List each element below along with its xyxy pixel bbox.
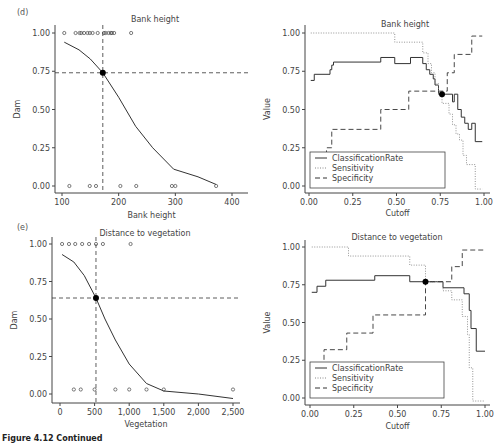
series-classificationrate xyxy=(312,276,485,352)
data-point xyxy=(68,184,71,187)
x-tick-label: 0.25 xyxy=(344,198,362,207)
data-point xyxy=(231,388,234,391)
fitted-curve xyxy=(64,42,216,184)
chart-title: Distance to vegetation xyxy=(351,233,442,242)
x-tick-label: 0.75 xyxy=(431,198,449,207)
y-tick-label: 0.00 xyxy=(282,182,300,191)
x-tick-label: 100 xyxy=(54,198,69,207)
chart-title: Bank height xyxy=(131,15,179,24)
data-point xyxy=(72,388,75,391)
data-point xyxy=(87,242,90,245)
data-point xyxy=(74,31,77,34)
x-tick-label: 0.00 xyxy=(301,410,319,419)
data-point xyxy=(67,242,70,245)
x-tick-label: 300 xyxy=(168,198,183,207)
x-tick-label: 0.00 xyxy=(300,198,318,207)
series-specificity xyxy=(324,250,485,368)
x-axis-label: Vegetation xyxy=(124,420,167,429)
figure-caption: Figure 4.12 Continued xyxy=(2,434,102,443)
x-axis-label: Bank height xyxy=(127,211,175,220)
data-point xyxy=(94,184,97,187)
data-point xyxy=(74,242,77,245)
data-point xyxy=(128,388,131,391)
x-tick-label: 500 xyxy=(87,408,102,417)
x-axis-label: Cutoff xyxy=(385,209,410,218)
x-tick-label: 1,000 xyxy=(118,408,141,417)
x-tick-label: 0.50 xyxy=(388,198,406,207)
legend-entry: Specificity xyxy=(332,384,373,393)
figure-canvas: (d)Bank height0.000.250.500.751.00100200… xyxy=(0,0,504,445)
data-point xyxy=(81,242,84,245)
series-specificity xyxy=(327,36,483,155)
data-point xyxy=(93,388,96,391)
x-tick-label: 2,500 xyxy=(222,408,245,417)
legend: ClassificationRateSensitivitySpecificity xyxy=(310,152,445,188)
x-tick-label: 0.25 xyxy=(345,410,363,419)
y-tick-label: 0.75 xyxy=(282,67,300,76)
y-tick-label: 0.50 xyxy=(29,315,47,324)
y-tick-label: 1.00 xyxy=(32,29,50,38)
panel-label: (d) xyxy=(17,8,28,17)
y-tick-label: 0.00 xyxy=(282,394,300,403)
y-axis-label: Dam xyxy=(13,99,22,118)
legend-entry: ClassificationRate xyxy=(332,154,403,163)
x-tick-label: 2,000 xyxy=(187,408,210,417)
x-tick-label: 400 xyxy=(224,198,239,207)
data-point xyxy=(101,242,104,245)
chart-1: Bank height0.000.250.500.751.000.000.250… xyxy=(263,20,493,218)
optimal-cutoff-marker xyxy=(423,279,429,285)
data-point xyxy=(119,184,122,187)
data-point xyxy=(60,242,63,245)
legend-entry: Sensitivity xyxy=(332,164,374,173)
data-point xyxy=(79,388,82,391)
y-tick-label: 0.25 xyxy=(282,144,300,153)
data-point xyxy=(63,31,66,34)
y-axis-label: Value xyxy=(263,311,272,333)
y-tick-label: 0.50 xyxy=(282,319,300,328)
data-point xyxy=(88,184,91,187)
data-point xyxy=(135,184,138,187)
chart-title: Bank height xyxy=(381,20,429,29)
cutoff-marker xyxy=(93,295,99,301)
panel-label: (e) xyxy=(17,223,28,232)
x-tick-label: 1.00 xyxy=(476,410,494,419)
chart-0: (d)Bank height0.000.250.500.751.00100200… xyxy=(13,8,248,220)
optimal-cutoff-marker xyxy=(439,91,445,97)
chart-3: Distance to vegetation0.000.250.500.751.… xyxy=(263,233,494,431)
y-tick-label: 0.50 xyxy=(282,106,300,115)
data-point xyxy=(129,242,132,245)
data-point xyxy=(96,31,99,34)
data-point xyxy=(174,184,177,187)
data-point xyxy=(130,31,133,34)
data-point xyxy=(215,184,218,187)
x-axis-label: Cutoff xyxy=(385,422,410,431)
legend: ClassificationRateSensitivitySpecificity xyxy=(310,362,444,398)
legend-entry: Sensitivity xyxy=(332,374,374,383)
x-tick-label: 200 xyxy=(111,198,126,207)
y-tick-label: 0.50 xyxy=(32,106,50,115)
data-point xyxy=(114,388,117,391)
y-tick-label: 1.00 xyxy=(282,243,300,252)
y-tick-label: 0.75 xyxy=(29,278,47,287)
x-tick-label: 0 xyxy=(57,408,62,417)
y-tick-label: 0.25 xyxy=(282,356,300,365)
y-tick-label: 0.00 xyxy=(32,182,50,191)
y-tick-label: 0.75 xyxy=(282,281,300,290)
data-point xyxy=(113,31,116,34)
y-axis-label: Value xyxy=(263,98,272,120)
chart-2: (e)Distance to vegetation0.000.250.500.7… xyxy=(10,223,244,429)
y-tick-label: 0.25 xyxy=(29,353,47,362)
legend-entry: Specificity xyxy=(332,174,373,183)
legend-entry: ClassificationRate xyxy=(332,364,403,373)
x-tick-label: 0.75 xyxy=(432,410,450,419)
data-point xyxy=(145,388,148,391)
y-tick-label: 0.75 xyxy=(32,67,50,76)
x-tick-label: 0.50 xyxy=(389,410,407,419)
data-point xyxy=(170,184,173,187)
cutoff-marker xyxy=(100,70,106,76)
y-tick-label: 0.00 xyxy=(29,390,47,399)
x-tick-label: 1,500 xyxy=(152,408,175,417)
x-tick-label: 1.00 xyxy=(475,198,493,207)
fitted-curve xyxy=(62,255,233,399)
y-tick-label: 1.00 xyxy=(282,29,300,38)
